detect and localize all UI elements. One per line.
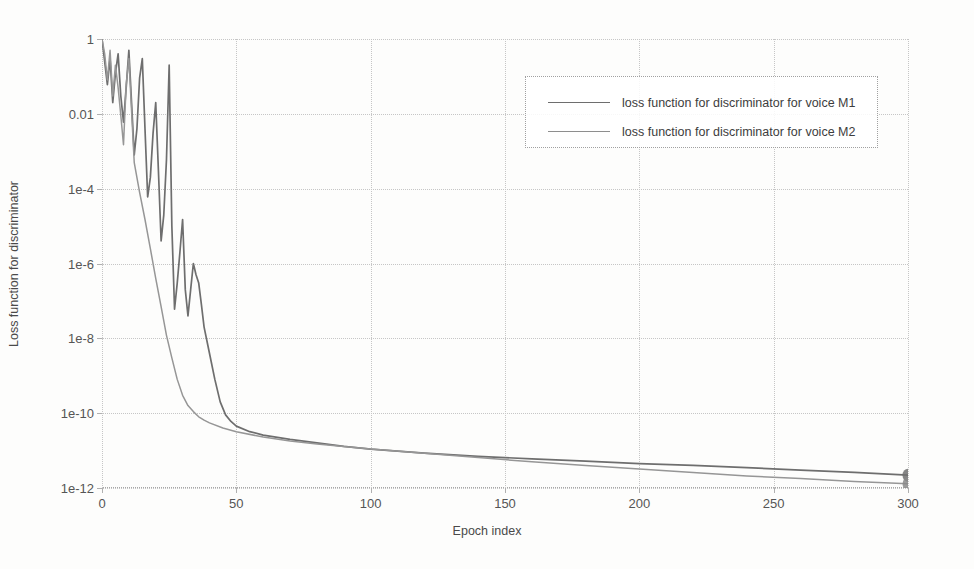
x-axis-tick-labels: 050100150200250300 [102,496,908,516]
gridline-x-300 [908,39,909,488]
y-tick-label: 1e-6 [68,256,94,271]
x-tick-label: 150 [494,496,516,511]
x-tick-label: 50 [229,496,243,511]
y-tick-label: 1e-4 [68,181,94,196]
x-tick-label: 200 [628,496,650,511]
y-tick-label: 1e-12 [61,481,94,496]
y-tick-label: 1e-10 [61,406,94,421]
legend-line-icon [548,131,610,132]
legend-item-m1: loss function for discriminator for voic… [548,88,877,117]
y-tick-label: 0.01 [69,106,94,121]
x-tick-mark [102,488,103,493]
x-tick-mark [774,488,775,493]
chart-figure: Loss function for discriminator 10.011e-… [0,0,974,569]
x-tick-label: 0 [98,496,105,511]
x-tick-mark [908,488,909,493]
legend-line-icon [548,102,610,103]
legend-item-m2: loss function for discriminator for voic… [548,117,877,146]
y-axis-tick-labels: 10.011e-41e-61e-81e-101e-12 [0,39,94,488]
legend-label-m1: loss function for discriminator for voic… [622,96,855,110]
endpoint-marker [903,477,909,488]
y-tick-label: 1 [87,32,94,47]
x-tick-label: 250 [763,496,785,511]
y-tick-label: 1e-8 [68,331,94,346]
chart-legend: loss function for discriminator for voic… [525,76,878,148]
x-axis-title: Epoch index [0,524,974,538]
x-tick-mark [639,488,640,493]
x-tick-label: 300 [897,496,919,511]
x-tick-mark [505,488,506,493]
x-tick-label: 100 [360,496,382,511]
x-tick-mark [236,488,237,493]
legend-label-m2: loss function for discriminator for voic… [622,125,855,139]
x-tick-mark [371,488,372,493]
page-caption-sliver [0,557,974,569]
